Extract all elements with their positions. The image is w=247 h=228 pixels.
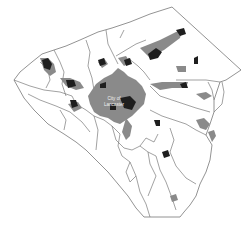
- city-label-line1: City of: [107, 96, 121, 101]
- city-label-line2: Lancaster: [104, 102, 125, 107]
- county-map: City of Lancaster: [0, 0, 247, 228]
